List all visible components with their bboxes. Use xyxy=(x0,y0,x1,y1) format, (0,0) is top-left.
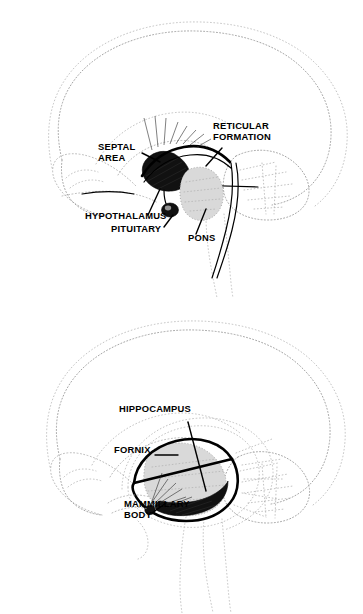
label-fornix: FORNIX xyxy=(114,444,151,455)
cerebrum-outline-lower xyxy=(59,459,102,515)
cerebrum-outline-lower xyxy=(61,160,104,216)
optic-tract-outline xyxy=(62,191,158,203)
brainstem-outline xyxy=(206,215,217,298)
temporal-lobe-outline xyxy=(53,154,136,216)
label-reticular-formation: RETICULAR FORMATION xyxy=(213,120,272,142)
brainstem-outline-right xyxy=(222,519,231,613)
label-pituitary: PITUITARY xyxy=(111,223,162,234)
temporal-lobe-detail xyxy=(64,469,102,487)
label-pons: PONS xyxy=(188,232,215,243)
reticular-tract-right xyxy=(217,163,238,278)
temporal-lobe-outline xyxy=(51,453,134,515)
lower-brain-illustration: HIPPOCAMPUS FORNIX MAMMILLARY BODY xyxy=(0,307,363,614)
upper-brain-figure: SEPTAL AREA RETICULAR FORMATION HYPOTHAL… xyxy=(0,0,363,307)
temporal-lobe-detail xyxy=(66,170,104,188)
label-septal-area: SEPTAL AREA xyxy=(98,141,138,163)
lower-brain-figure: HIPPOCAMPUS FORNIX MAMMILLARY BODY xyxy=(0,307,363,614)
label-hippocampus: HIPPOCAMPUS xyxy=(119,403,191,414)
upper-brain-illustration: SEPTAL AREA RETICULAR FORMATION HYPOTHAL… xyxy=(0,0,363,307)
brainstem-outline-right xyxy=(224,214,233,298)
cerebellum-folia xyxy=(240,162,292,214)
brainstem-outline-mid xyxy=(180,517,186,613)
septal-fan-fibers xyxy=(144,116,211,150)
pons-body xyxy=(180,167,223,220)
optic-chiasm-outline xyxy=(138,521,148,559)
cerebellum-folia xyxy=(240,463,293,518)
brainstem-outline-left xyxy=(203,519,213,613)
cerebellum-outline xyxy=(223,452,310,523)
label-hypothalamus: HYPOTHALAMUS xyxy=(85,210,167,221)
